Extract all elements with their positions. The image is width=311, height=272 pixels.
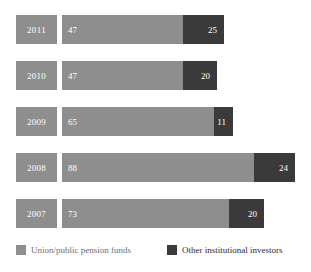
bar-value-label: 65: [68, 117, 77, 127]
category-label-2007: 2007: [16, 199, 57, 228]
category-label-text: 2010: [27, 71, 46, 81]
bar-segment-union-public-pension-funds: 47: [62, 61, 183, 90]
bar-segment-union-public-pension-funds: 88: [62, 153, 254, 182]
category-label-2008: 2008: [16, 153, 57, 182]
bar-track: 47 25: [62, 15, 224, 44]
legend-label-text: Other institutional investors: [182, 245, 283, 255]
bar-value-label: 24: [279, 163, 288, 173]
category-label-text: 2008: [27, 163, 46, 173]
bar-segment-other-institutional-investors: 24: [254, 153, 295, 182]
bar-segment-other-institutional-investors: 20: [229, 199, 264, 228]
bar-value-label: 11: [217, 117, 226, 127]
bar-track: 47 20: [62, 61, 217, 90]
legend-item-union-public-pension-funds: Union/public pension funds: [16, 245, 131, 255]
bar-segment-union-public-pension-funds: 73: [62, 199, 229, 228]
bar-segment-other-institutional-investors: 20: [183, 61, 217, 90]
bar-value-label: 20: [201, 71, 210, 81]
chart-legend: Union/public pension funds Other institu…: [0, 240, 311, 260]
bar-track: 73 20: [62, 199, 264, 228]
category-label-2009: 2009: [16, 107, 57, 136]
bar-value-label: 47: [68, 71, 77, 81]
bar-track: 88 24: [62, 153, 295, 182]
bar-segment-union-public-pension-funds: 65: [62, 107, 214, 136]
bar-segment-other-institutional-investors: 11: [214, 107, 233, 136]
bar-value-label: 25: [208, 25, 217, 35]
bar-track: 65 11: [62, 107, 233, 136]
category-label-2010: 2010: [16, 61, 57, 90]
stacked-bar-chart: 2011 47 25 2010 47 20 2009: [0, 0, 311, 272]
bar-value-label: 47: [68, 25, 77, 35]
category-label-2011: 2011: [16, 15, 57, 44]
bar-value-label: 88: [68, 163, 77, 173]
bar-value-label: 73: [68, 209, 77, 219]
legend-item-other-institutional-investors: Other institutional investors: [167, 245, 283, 255]
bar-segment-union-public-pension-funds: 47: [62, 15, 183, 44]
category-label-text: 2009: [27, 117, 46, 127]
legend-swatch-icon: [16, 245, 26, 255]
legend-label-text: Union/public pension funds: [31, 245, 131, 255]
legend-swatch-icon: [167, 245, 177, 255]
category-label-text: 2011: [27, 25, 46, 35]
category-label-text: 2007: [27, 209, 46, 219]
bar-segment-other-institutional-investors: 25: [183, 15, 224, 44]
bar-value-label: 20: [248, 209, 257, 219]
